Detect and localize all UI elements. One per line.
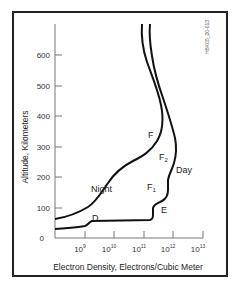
y-tick-label: 300 xyxy=(37,143,51,152)
y-tick-label: 500 xyxy=(37,82,51,91)
y-tick-label: 0 xyxy=(40,234,45,243)
day-curve xyxy=(55,24,176,229)
y-tick-label: 100 xyxy=(37,204,51,213)
x-tick-label: 1012 xyxy=(161,243,176,254)
x-tick-label: 109 xyxy=(74,243,86,254)
e-layer-label: E xyxy=(161,205,167,215)
f2-layer-label: F2 xyxy=(159,152,169,163)
y-tick-label: 200 xyxy=(37,173,51,182)
x-tick-label: 1013 xyxy=(191,243,206,254)
figure-code: HBK05_20-013 xyxy=(204,20,210,54)
y-tick-label: 400 xyxy=(37,112,51,121)
y-ticks xyxy=(55,55,62,208)
f-layer-label: F xyxy=(148,130,154,140)
x-axis-title: Electron Density, Electrons/Cubic Meter xyxy=(53,262,203,272)
y-tick-labels: 0 100 200 300 400 500 600 xyxy=(37,51,51,243)
x-tick-label: 1010 xyxy=(102,243,117,254)
y-axis-title: Altitude, Kilometers xyxy=(20,110,30,183)
ionosphere-chart: 0 100 200 300 400 500 600 109 1010 1011 … xyxy=(0,0,233,286)
day-label: Day xyxy=(176,165,193,175)
y-tick-label: 600 xyxy=(37,51,51,60)
x-tick-labels: 109 1010 1011 1012 1013 xyxy=(74,243,205,254)
f1-layer-label: F1 xyxy=(147,182,157,193)
x-ticks xyxy=(85,231,203,238)
d-layer-label: D xyxy=(92,213,99,223)
night-label: Night xyxy=(91,184,113,194)
x-tick-label: 1011 xyxy=(132,243,146,254)
